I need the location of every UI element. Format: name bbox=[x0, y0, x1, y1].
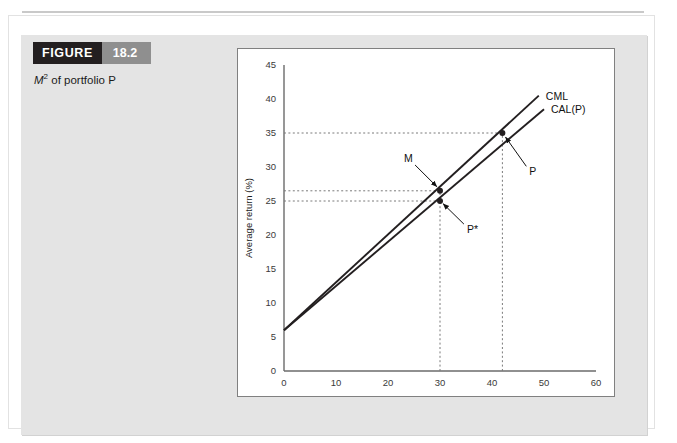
guide-lines bbox=[284, 133, 502, 371]
y-tick-label: 30 bbox=[265, 161, 276, 172]
point-annotations: MP*P bbox=[404, 137, 536, 235]
x-tick-label: 20 bbox=[383, 377, 394, 388]
series-labels: CMLCAL(P) bbox=[546, 90, 586, 116]
annotation-label-M: M bbox=[404, 152, 413, 164]
figure-number-label: 18.2 bbox=[102, 42, 151, 64]
annotation-label-P*: P* bbox=[467, 223, 478, 235]
data-point-P* bbox=[437, 198, 443, 204]
data-points bbox=[437, 130, 505, 204]
figure-outer-frame: FIGURE 18.2 M2 of portfolio P 0510152025… bbox=[8, 15, 655, 429]
data-point-M bbox=[437, 188, 443, 194]
figure-header: FIGURE 18.2 bbox=[33, 42, 151, 64]
y-tick-label: 10 bbox=[265, 297, 276, 308]
y-tick-label: 40 bbox=[265, 93, 276, 104]
figure-caption: M2 of portfolio P bbox=[34, 72, 214, 86]
annotation-arrow-P* bbox=[443, 204, 464, 224]
y-tick-label: 20 bbox=[265, 229, 276, 240]
series-label-CML: CML bbox=[546, 90, 568, 102]
y-tick-label: 45 bbox=[265, 59, 276, 70]
x-tick-label: 60 bbox=[591, 377, 602, 388]
y-axis-tick-labels: 051015202530354045 bbox=[265, 59, 276, 376]
data-point-P bbox=[499, 130, 505, 136]
y-tick-label: 0 bbox=[271, 365, 276, 376]
y-tick-label: 35 bbox=[265, 127, 276, 138]
series-label-CAL(P): CAL(P) bbox=[551, 103, 585, 115]
chart-plot-panel: 051015202530354045 0102030405060 MP*P CM… bbox=[237, 48, 615, 397]
data-series bbox=[284, 96, 544, 331]
x-tick-label: 0 bbox=[281, 377, 286, 388]
y-tick-label: 5 bbox=[271, 331, 276, 342]
figure-kicker-label: FIGURE bbox=[33, 42, 102, 64]
y-tick-label: 25 bbox=[265, 195, 276, 206]
x-tick-label: 10 bbox=[331, 377, 342, 388]
page-top-rule bbox=[22, 11, 644, 13]
caption-text: of portfolio P bbox=[48, 74, 116, 86]
y-axis-title: Average return (%) bbox=[243, 178, 254, 258]
x-tick-label: 30 bbox=[435, 377, 446, 388]
x-axis-tick-labels: 0102030405060 bbox=[281, 377, 601, 388]
chart-svg: 051015202530354045 0102030405060 MP*P CM… bbox=[238, 49, 612, 394]
x-tick-label: 40 bbox=[487, 377, 498, 388]
caption-symbol: M bbox=[34, 74, 44, 86]
annotation-arrow-M bbox=[415, 165, 437, 187]
series-line-CAL(P) bbox=[284, 109, 544, 330]
x-tick-label: 50 bbox=[539, 377, 550, 388]
y-tick-label: 15 bbox=[265, 263, 276, 274]
annotation-arrow-P bbox=[506, 137, 527, 166]
annotation-label-P: P bbox=[529, 165, 536, 177]
